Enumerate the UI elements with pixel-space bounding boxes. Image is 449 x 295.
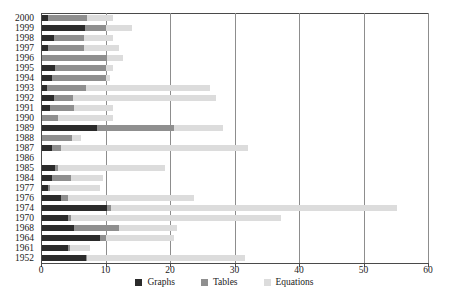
legend-label: Tables bbox=[213, 277, 238, 287]
y-axis-tick-label: 1989 bbox=[15, 123, 34, 133]
bar-segment-graphs bbox=[42, 35, 54, 41]
bar-segment-equations bbox=[50, 185, 100, 191]
bar-row bbox=[42, 143, 248, 153]
bar-segment-tables bbox=[54, 95, 73, 101]
bar-row bbox=[42, 203, 397, 213]
bar-segment-graphs bbox=[42, 195, 61, 201]
bar-segment-graphs bbox=[42, 255, 86, 261]
bar-row bbox=[42, 43, 119, 53]
y-axis-tick-label: 1998 bbox=[15, 33, 34, 43]
bar-segment-equations bbox=[58, 115, 113, 121]
bar-segment-equations bbox=[84, 35, 113, 41]
bar-row bbox=[42, 223, 177, 233]
y-axis-tick-label: 1988 bbox=[15, 133, 34, 143]
bar-chart: 2000199919981997199619951994199319921991… bbox=[0, 0, 449, 295]
x-axis-tick-label: 60 bbox=[423, 265, 433, 275]
bar-segment-graphs bbox=[42, 245, 68, 251]
bar-segment-tables bbox=[52, 75, 107, 81]
x-axis-tick-label: 0 bbox=[39, 265, 44, 275]
bar-row bbox=[42, 233, 174, 243]
bar-row bbox=[42, 23, 132, 33]
bar-segment-equations bbox=[68, 195, 194, 201]
bar-segment-equations bbox=[71, 215, 281, 221]
bar-segment-graphs bbox=[42, 205, 107, 211]
legend-item: Graphs bbox=[135, 277, 174, 287]
y-axis-tick-label: 1990 bbox=[15, 113, 34, 123]
bar-segment-equations bbox=[71, 175, 103, 181]
bar-segment-equations bbox=[106, 75, 109, 81]
bar-segment-graphs bbox=[42, 225, 74, 231]
bar-segment-equations bbox=[174, 125, 223, 131]
y-axis-tick-label: 1991 bbox=[15, 103, 34, 113]
bar-segment-graphs bbox=[42, 145, 52, 151]
bar-segment-tables bbox=[48, 15, 87, 21]
bar-segment-equations bbox=[72, 135, 80, 141]
bar-segment-tables bbox=[47, 85, 86, 91]
bar-segment-tables bbox=[85, 25, 106, 31]
bar-segment-graphs bbox=[42, 215, 68, 221]
bar-segment-equations bbox=[87, 15, 113, 21]
y-axis-tick-label: 1994 bbox=[15, 73, 34, 83]
bar-segment-graphs bbox=[42, 65, 55, 71]
bar-segment-equations bbox=[86, 85, 210, 91]
bar-segment-equations bbox=[111, 205, 397, 211]
bar-segment-equations bbox=[119, 225, 177, 231]
bar-row bbox=[42, 93, 216, 103]
bar-segment-tables bbox=[52, 175, 71, 181]
bar-segment-tables bbox=[48, 45, 83, 51]
y-axis-tick-label: 1996 bbox=[15, 53, 34, 63]
bar-segment-equations bbox=[106, 25, 132, 31]
bar-segment-equations bbox=[74, 105, 113, 111]
y-axis-tick-label: 1999 bbox=[15, 23, 34, 33]
y-axis-tick-label: 1995 bbox=[15, 63, 34, 73]
bar-segment-equations bbox=[61, 145, 248, 151]
y-axis-tick-label: 1968 bbox=[15, 223, 34, 233]
bar-segment-tables bbox=[42, 135, 72, 141]
y-axis-tick-label: 1976 bbox=[15, 193, 34, 203]
bar-segment-graphs bbox=[42, 105, 50, 111]
bar-segment-tables bbox=[54, 35, 84, 41]
bar-segment-tables bbox=[50, 105, 74, 111]
bar-segment-graphs bbox=[42, 125, 97, 131]
bar-segment-equations bbox=[70, 245, 91, 251]
bar-row bbox=[42, 123, 223, 133]
y-axis-labels: 2000199919981997199619951994199319921991… bbox=[0, 13, 38, 263]
bar-row bbox=[42, 183, 100, 193]
bar-row bbox=[42, 253, 245, 263]
y-axis-tick-label: 1984 bbox=[15, 173, 34, 183]
bar-row bbox=[42, 53, 123, 63]
legend-swatch-icon bbox=[201, 279, 208, 286]
legend-swatch-icon bbox=[264, 279, 271, 286]
legend-item: Equations bbox=[264, 277, 314, 287]
bar-segment-equations bbox=[106, 65, 112, 71]
y-axis-tick-label: 1977 bbox=[15, 183, 34, 193]
y-axis-tick-label: 1987 bbox=[15, 143, 34, 153]
bar-segment-tables bbox=[97, 125, 174, 131]
plot-area bbox=[41, 13, 428, 263]
y-axis-tick-label: 1997 bbox=[15, 43, 34, 53]
y-axis-tick-label: 1952 bbox=[15, 253, 34, 263]
bar-row bbox=[42, 63, 113, 73]
bar-segment-tables bbox=[42, 115, 58, 121]
bar-segment-graphs bbox=[42, 235, 100, 241]
bar-segment-tables bbox=[55, 65, 107, 71]
legend-item: Tables bbox=[201, 277, 238, 287]
y-axis-tick-label: 1964 bbox=[15, 233, 34, 243]
bar-row bbox=[42, 113, 113, 123]
bar-segment-tables bbox=[74, 225, 119, 231]
bar-segment-tables bbox=[52, 145, 62, 151]
y-axis-tick-label: 1961 bbox=[15, 243, 34, 253]
bar-row bbox=[42, 163, 165, 173]
bar-segment-equations bbox=[73, 95, 216, 101]
bar-row bbox=[42, 173, 103, 183]
y-axis-tick-label: 1974 bbox=[15, 203, 34, 213]
bar-row bbox=[42, 193, 194, 203]
bar-segment-equations bbox=[106, 235, 174, 241]
x-axis-tick-label: 30 bbox=[230, 265, 240, 275]
bar-segment-equations bbox=[87, 255, 245, 261]
y-axis-tick-label: 1993 bbox=[15, 83, 34, 93]
y-axis-tick-label: 2000 bbox=[15, 13, 34, 23]
chart-legend: GraphsTablesEquations bbox=[0, 277, 449, 287]
bar-row bbox=[42, 73, 110, 83]
bar-segment-equations bbox=[107, 55, 123, 61]
